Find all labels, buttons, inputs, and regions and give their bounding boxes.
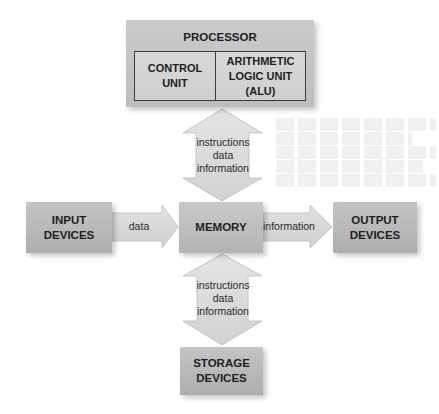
processor-box: PROCESSOR CONTROL UNIT ARITHMETIC LOGIC … xyxy=(126,20,314,107)
alu-label-line2: LOGIC UNIT (ALU) xyxy=(216,69,305,99)
arrow-label-data: data xyxy=(190,149,256,162)
output-label-line1: OUTPUT xyxy=(350,213,401,228)
input-devices-box: INPUT DEVICES xyxy=(26,202,112,253)
input-label-line1: INPUT xyxy=(44,213,95,228)
control-unit-label-line1: CONTROL xyxy=(148,61,202,76)
output-devices-box: OUTPUT DEVICES xyxy=(333,202,417,253)
input-label-line2: DEVICES xyxy=(44,228,95,243)
storage-devices-box: STORAGE DEVICES xyxy=(180,347,263,395)
control-unit-label-line2: UNIT xyxy=(148,76,202,91)
memory-output-arrow-label: information xyxy=(262,220,316,233)
storage-label-line1: STORAGE xyxy=(193,356,250,371)
arrow-label-instructions: instructions xyxy=(190,279,256,292)
control-unit-box: CONTROL UNIT xyxy=(135,52,216,100)
output-label-line2: DEVICES xyxy=(350,228,401,243)
alu-box: ARITHMETIC LOGIC UNIT (ALU) xyxy=(216,52,305,100)
memory-label: MEMORY xyxy=(195,220,246,235)
storage-label-line2: DEVICES xyxy=(193,371,250,386)
alu-label-line1: ARITHMETIC xyxy=(216,54,305,69)
processor-memory-arrow-label: instructions data information xyxy=(190,136,256,175)
memory-box: MEMORY xyxy=(179,202,263,253)
memory-storage-arrow-label: instructions data information xyxy=(190,279,256,318)
arrow-label-information: information xyxy=(190,162,256,175)
arrow-label-information: information xyxy=(190,305,256,318)
arrow-label-instructions: instructions xyxy=(190,136,256,149)
arrow-label-data: data xyxy=(190,292,256,305)
processor-components: CONTROL UNIT ARITHMETIC LOGIC UNIT (ALU) xyxy=(134,51,306,101)
input-memory-arrow-label: data xyxy=(116,220,162,233)
processor-title: PROCESSOR xyxy=(126,30,314,45)
